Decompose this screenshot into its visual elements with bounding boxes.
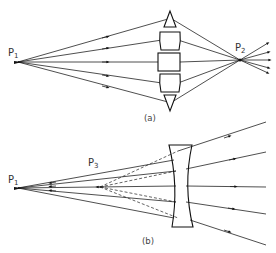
caption-b: (b) bbox=[142, 236, 154, 246]
converging-rays-a bbox=[172, 19, 240, 102]
caption-a: (a) bbox=[144, 113, 156, 123]
label-p1-b: P1 bbox=[8, 174, 19, 187]
label-p3: P3 bbox=[88, 157, 99, 170]
optics-figure: P1 P2 (a) bbox=[0, 0, 276, 253]
fresnel-lens bbox=[158, 11, 180, 111]
label-p1-a: P1 bbox=[8, 47, 19, 60]
label-p2: P2 bbox=[235, 42, 246, 55]
diagram-b: P1 P3 (b) bbox=[8, 122, 266, 246]
diagram-a: P1 P2 (a) bbox=[8, 11, 270, 123]
incoming-rays-a bbox=[18, 19, 168, 102]
virtual-rays-b bbox=[97, 151, 178, 218]
